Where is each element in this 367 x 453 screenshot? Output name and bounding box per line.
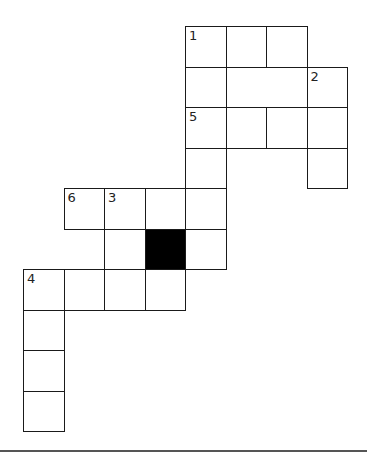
crossword-cell[interactable]: [185, 67, 227, 109]
clue-number: 4: [27, 271, 35, 286]
clue-number: 2: [311, 69, 319, 84]
crossword-cell[interactable]: [307, 148, 349, 190]
crossword-cell[interactable]: [307, 107, 349, 149]
crossword-cell[interactable]: [145, 269, 187, 311]
clue-number: 1: [189, 28, 197, 43]
numbered-cell-2[interactable]: 2: [307, 67, 349, 109]
crossword-cell[interactable]: [104, 269, 146, 311]
crossword-cell[interactable]: [266, 107, 308, 149]
crossword-cell[interactable]: [226, 26, 268, 68]
clue-number: 3: [108, 190, 116, 205]
crossword-cell[interactable]: [64, 269, 106, 311]
numbered-cell-5[interactable]: 5: [185, 107, 227, 149]
numbered-cell-6[interactable]: 6: [64, 188, 106, 230]
crossword-cell[interactable]: [226, 107, 268, 149]
numbered-cell-4[interactable]: 4: [23, 269, 65, 311]
crossword-cell[interactable]: [266, 26, 308, 68]
crossword-cell[interactable]: [185, 188, 227, 230]
bottom-divider: [0, 450, 367, 452]
numbered-cell-3[interactable]: 3: [104, 188, 146, 230]
crossword-cell[interactable]: [185, 229, 227, 271]
black-square: [145, 229, 187, 271]
clue-number: 6: [68, 190, 76, 205]
crossword-cell[interactable]: [145, 188, 187, 230]
crossword-grid: 125634: [0, 0, 367, 453]
crossword-cell[interactable]: [23, 310, 65, 352]
crossword-cell[interactable]: [104, 229, 146, 271]
numbered-cell-1[interactable]: 1: [185, 26, 227, 68]
crossword-cell[interactable]: [23, 350, 65, 392]
crossword-cell[interactable]: [23, 391, 65, 433]
crossword-cell[interactable]: [185, 148, 227, 190]
clue-number: 5: [189, 109, 197, 124]
